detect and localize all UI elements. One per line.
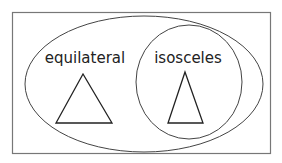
universe-rectangle [13, 13, 271, 154]
equilateral-triangle-icon [56, 74, 112, 123]
outer-ellipse [25, 16, 263, 152]
venn-diagram: equilateral isosceles [0, 0, 282, 163]
isosceles-triangle-icon [168, 72, 203, 123]
isosceles-label: isosceles [154, 49, 222, 67]
equilateral-label: equilateral [45, 49, 125, 67]
